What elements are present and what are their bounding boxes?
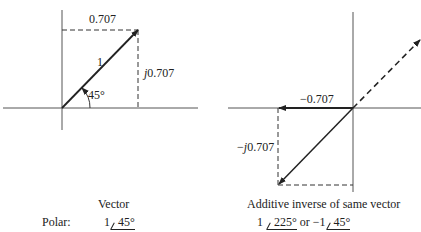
left-polar-angle: 45° (111, 216, 135, 228)
left-vertical-value: 0.707 (147, 66, 174, 80)
right-polar1-angle: 225° (267, 216, 297, 228)
left-caption: Vector (98, 198, 129, 210)
right-horizontal-label: −0.707 (300, 93, 334, 105)
left-vertical-label: j0.707 (144, 67, 174, 79)
right-vertical-prefix: − (237, 140, 244, 154)
right-inverse-vector-arrow (279, 108, 353, 184)
left-magnitude-label: 1 (97, 56, 103, 68)
right-vertical-label: −j0.707 (237, 141, 274, 153)
right-vertical-value: 0.707 (247, 140, 274, 154)
right-polar2-angle: 45° (327, 216, 351, 228)
right-polar-values: 1 225° or −145° (257, 216, 350, 228)
right-polar2-magnitude: −1 (313, 215, 326, 229)
or-text: or (300, 215, 310, 229)
left-polar-magnitude: 1 (104, 215, 110, 229)
left-horizontal-label: 0.707 (89, 13, 116, 25)
right-caption: Additive inverse of same vector (247, 198, 400, 210)
right-polar1-magnitude: 1 (257, 215, 263, 229)
left-polar-value: 145° (104, 216, 135, 228)
right-dashed-original-vector (353, 40, 420, 108)
left-polar-label: Polar: (42, 216, 71, 228)
left-angle-label: 45° (88, 89, 105, 101)
